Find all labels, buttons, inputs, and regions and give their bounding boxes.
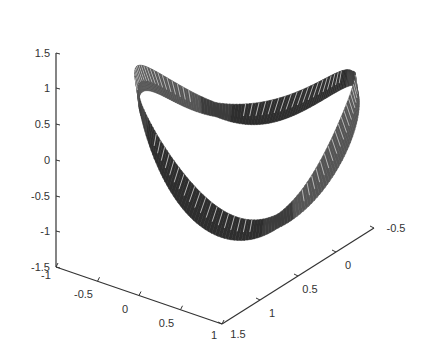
x-tick: [181, 306, 183, 310]
x-tick-label: 0: [122, 303, 128, 315]
y-tick: [256, 298, 260, 300]
y-tick: [370, 226, 374, 228]
z-tick-label: 0: [44, 154, 50, 166]
z-tick-label: 1.5: [35, 47, 50, 59]
ribbon-segment: [278, 212, 281, 228]
z-tick-label: 0.5: [35, 118, 50, 130]
z-tick-label: -0.5: [31, 190, 50, 202]
y-tick: [332, 250, 336, 252]
y-tick-label: 1: [269, 307, 275, 319]
y-tick-label: -0.5: [387, 222, 406, 234]
x-tick: [98, 277, 100, 281]
y-tick-label: 0: [345, 259, 351, 271]
z-tick-label: 1: [44, 82, 50, 94]
y-tick-label: 1.5: [230, 328, 245, 340]
x-tick-label: 1: [211, 329, 217, 341]
z-tick-label: -1: [40, 225, 50, 237]
chart-canvas: 1.510.50-0.5-1-1.5-1-0.500.511.510.50-0.…: [0, 0, 424, 355]
x-tick: [139, 292, 141, 296]
tick-labels: 1.510.50-0.5-1-1.5-1-0.500.511.510.50-0.…: [31, 47, 405, 341]
y-tick-label: 0.5: [302, 283, 317, 295]
x-tick-label: 0.5: [159, 317, 174, 329]
y-tick: [294, 274, 298, 276]
x-tick-label: -1: [41, 269, 51, 281]
x-tick-label: -0.5: [74, 288, 93, 300]
z-tick: [56, 267, 60, 268]
ribbon-segment: [213, 102, 216, 117]
ribbon-surface: [135, 65, 360, 240]
